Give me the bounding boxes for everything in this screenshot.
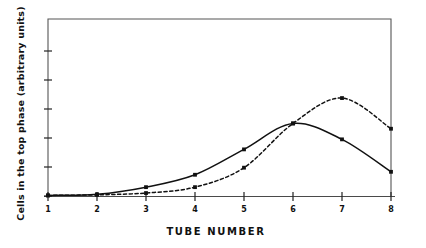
x-tick-label: 7 xyxy=(339,205,345,214)
series-solid-curve xyxy=(46,122,393,198)
data-point-marker xyxy=(340,137,344,141)
data-point-marker xyxy=(340,96,344,100)
data-point-marker xyxy=(242,166,246,170)
series-dashed-curve xyxy=(46,96,393,197)
data-point-marker xyxy=(95,193,99,197)
x-tick-label: 8 xyxy=(388,205,394,214)
x-tick-label: 4 xyxy=(192,205,198,214)
x-axis-label-container: TUBE NUMBER xyxy=(40,220,392,239)
x-tick-labels: 1 2 3 4 5 6 7 8 xyxy=(45,205,394,214)
series-line xyxy=(48,98,391,195)
x-tick-label: 5 xyxy=(241,205,247,214)
data-point-marker xyxy=(46,194,50,198)
data-point-marker xyxy=(291,122,295,126)
chart-plot-area: 1 2 3 4 5 6 7 8 xyxy=(0,0,426,248)
x-axis-label: TUBE NUMBER xyxy=(166,226,265,237)
data-series-layer xyxy=(46,96,393,197)
data-point-marker xyxy=(144,185,148,189)
x-tick-label: 3 xyxy=(143,205,149,214)
axis-frame xyxy=(48,19,391,196)
data-point-marker xyxy=(242,147,246,151)
data-point-marker xyxy=(144,191,148,195)
x-tick-label: 1 xyxy=(45,205,51,214)
data-point-marker xyxy=(193,173,197,177)
x-tick-label: 6 xyxy=(290,205,296,214)
x-tick-label: 2 xyxy=(94,205,100,214)
data-point-marker xyxy=(193,185,197,189)
data-point-marker xyxy=(389,170,393,174)
chart-figure: 1 2 3 4 5 6 7 8 Cells in the top phase (… xyxy=(0,0,426,248)
series-line xyxy=(48,123,391,195)
data-point-marker xyxy=(389,127,393,131)
